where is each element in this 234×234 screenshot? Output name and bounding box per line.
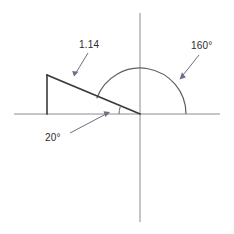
hypotenuse-length-label: 1.14 (79, 39, 99, 50)
geometry-diagram: 1.14 160° 20° (0, 0, 234, 234)
triangle-hypotenuse (47, 75, 140, 114)
angle-arc-20 (119, 107, 120, 114)
length-leader (72, 53, 88, 77)
arc-angle-label: 160° (191, 40, 212, 51)
arc-angle-leader (180, 55, 200, 80)
base-angle-label: 20° (45, 132, 61, 143)
angle-arc-160 (97, 68, 186, 114)
length-leader-arrowhead (72, 71, 78, 77)
diagram-canvas (0, 0, 234, 234)
